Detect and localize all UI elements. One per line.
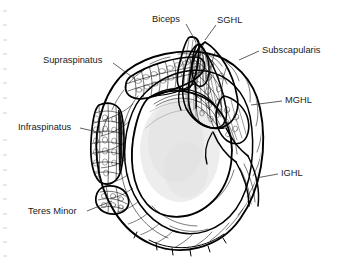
figure-canvas: Biceps SGHL Subscapularis MGHL IGHL Supr… [0, 0, 345, 266]
label-biceps: Biceps [152, 14, 180, 24]
anatomical-figure: Biceps SGHL Subscapularis MGHL IGHL Supr… [0, 0, 345, 266]
label-mghl: MGHL [285, 95, 312, 105]
label-ighl: IGHL [281, 168, 303, 178]
label-infraspinatus: Infraspinatus [18, 122, 72, 132]
label-subscapularis: Subscapularis [262, 45, 321, 55]
label-sghl: SGHL [217, 15, 242, 25]
label-supraspinatus: Supraspinatus [43, 55, 103, 65]
label-teres-minor: Teres Minor [28, 206, 77, 216]
